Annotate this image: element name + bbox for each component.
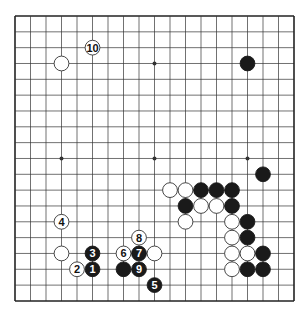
move-number: 7 xyxy=(136,247,142,259)
white-stone-icon xyxy=(194,199,209,214)
black-stone-icon xyxy=(240,214,255,229)
white-stone-icon xyxy=(240,246,255,261)
move-number: 3 xyxy=(89,247,95,259)
black-stone xyxy=(240,56,255,71)
numbered-stone-4: 4 xyxy=(54,214,69,229)
move-number: 4 xyxy=(58,216,65,228)
black-stone xyxy=(256,167,271,182)
stones-layer: 12345678910 xyxy=(54,40,270,292)
move-number: 5 xyxy=(151,279,157,291)
numbered-stone-6: 6 xyxy=(116,246,131,261)
black-stone xyxy=(256,262,271,277)
white-stone-icon xyxy=(178,214,193,229)
black-stone-icon xyxy=(209,183,224,198)
white-stone xyxy=(194,199,209,214)
white-stone-icon xyxy=(147,246,162,261)
black-stone xyxy=(240,262,255,277)
numbered-stone-1: 1 xyxy=(85,262,100,277)
star-point xyxy=(246,156,250,160)
white-stone xyxy=(225,246,240,261)
move-number: 6 xyxy=(120,247,126,259)
white-stone xyxy=(240,246,255,261)
white-stone xyxy=(178,183,193,198)
black-stone xyxy=(240,214,255,229)
numbered-stone-10: 10 xyxy=(85,40,100,55)
white-stone-icon xyxy=(225,246,240,261)
white-stone-icon xyxy=(225,230,240,245)
black-stone-icon xyxy=(225,183,240,198)
numbered-stone-7: 7 xyxy=(132,246,147,261)
move-number: 9 xyxy=(136,263,142,275)
black-stone-icon xyxy=(256,262,271,277)
white-stone xyxy=(225,214,240,229)
star-point xyxy=(153,61,157,65)
black-stone-icon xyxy=(194,183,209,198)
black-stone-icon xyxy=(240,262,255,277)
white-stone-icon xyxy=(163,183,178,198)
white-stone xyxy=(54,56,69,71)
numbered-stone-2: 2 xyxy=(70,262,85,277)
white-stone xyxy=(225,230,240,245)
numbered-stone-5: 5 xyxy=(147,278,162,293)
move-number: 2 xyxy=(74,263,80,275)
numbered-stone-3: 3 xyxy=(85,246,100,261)
white-stone xyxy=(178,214,193,229)
white-stone-icon xyxy=(225,214,240,229)
black-stone xyxy=(256,246,271,261)
move-number: 10 xyxy=(86,42,98,54)
numbered-stone-9: 9 xyxy=(132,262,147,277)
black-stone-icon xyxy=(240,56,255,71)
black-stone xyxy=(225,199,240,214)
black-stone-icon xyxy=(225,199,240,214)
black-stone-icon xyxy=(256,167,271,182)
move-number: 8 xyxy=(136,232,142,244)
black-stone xyxy=(178,199,193,214)
move-number: 1 xyxy=(89,263,95,275)
white-stone xyxy=(147,246,162,261)
white-stone xyxy=(209,199,224,214)
black-stone xyxy=(240,230,255,245)
white-stone-icon xyxy=(209,199,224,214)
white-stone xyxy=(54,246,69,261)
white-stone-icon xyxy=(54,56,69,71)
white-stone xyxy=(163,183,178,198)
black-stone-icon xyxy=(240,230,255,245)
numbered-stone-8: 8 xyxy=(132,230,147,245)
black-stone xyxy=(194,183,209,198)
star-point xyxy=(153,156,157,160)
white-stone-icon xyxy=(178,183,193,198)
go-board: 12345678910 xyxy=(0,0,306,316)
star-point xyxy=(60,156,64,160)
black-stone xyxy=(116,262,131,277)
black-stone xyxy=(225,183,240,198)
black-stone-icon xyxy=(256,246,271,261)
white-stone-icon xyxy=(54,246,69,261)
black-stone-icon xyxy=(178,199,193,214)
black-stone xyxy=(209,183,224,198)
black-stone-icon xyxy=(116,262,131,277)
white-stone-icon xyxy=(225,262,240,277)
go-board-diagram: 12345678910 xyxy=(0,0,306,316)
white-stone xyxy=(225,262,240,277)
